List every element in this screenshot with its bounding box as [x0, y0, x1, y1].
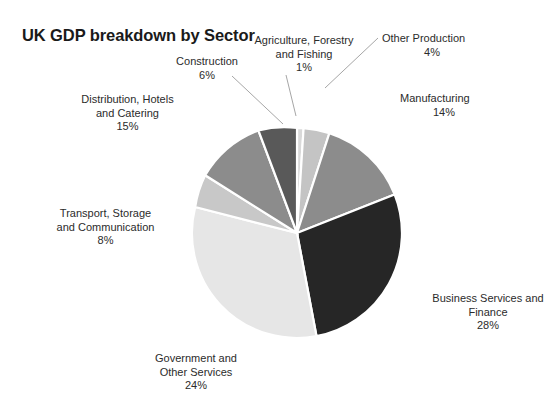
- pie-chart-figure: UK GDP breakdown by Sector: [0, 0, 558, 420]
- slice-label-line1: Other Production: [382, 32, 465, 44]
- slice-value: 4%: [382, 46, 482, 60]
- slice-label-line1: Business Services and: [432, 292, 543, 304]
- slice-label-line1: Manufacturing: [400, 92, 470, 104]
- slice-label-business-services-and-finance: Business Services and Finance 28%: [424, 292, 552, 333]
- leader-line-agriculture: [286, 75, 296, 116]
- slice-label-line2: and Catering: [96, 107, 159, 119]
- slice-label-line2: Other Services: [160, 366, 233, 378]
- slice-value: 6%: [158, 69, 256, 83]
- slice-value: 15%: [60, 120, 195, 134]
- slice-label-manufacturing: Manufacturing 14%: [400, 92, 510, 119]
- slice-label-transport-storage-and-communication: Transport, Storage and Communication 8%: [33, 207, 178, 248]
- slice-label-line1: Transport, Storage: [60, 207, 151, 219]
- slice-value: 1%: [245, 61, 363, 75]
- slice-label-line2: and Communication: [57, 221, 155, 233]
- slice-label-government-and-other-services: Government and Other Services 24%: [131, 352, 261, 393]
- slice-label-line2: and Fishing: [276, 48, 333, 60]
- slice-value: 24%: [131, 379, 261, 393]
- slice-label-line1: Agriculture, Forestry: [254, 34, 353, 46]
- slice-label-line1: Government and: [155, 352, 237, 364]
- leader-line-construction: [232, 76, 283, 124]
- slice-label-distribution-hotels-and-catering: Distribution, Hotels and Catering 15%: [60, 93, 195, 134]
- slice-label-line1: Distribution, Hotels: [81, 93, 173, 105]
- slice-label-agriculture-forestry-and-fishing: Agriculture, Forestry and Fishing 1%: [245, 34, 363, 75]
- pie-slices: [192, 127, 402, 338]
- slice-label-construction: Construction 6%: [158, 55, 256, 82]
- slice-label-line1: Construction: [176, 55, 238, 67]
- slice-label-other-production: Other Production 4%: [382, 32, 494, 59]
- slice-label-line2: Finance: [468, 306, 507, 318]
- slice-value: 14%: [400, 106, 488, 120]
- slice-value: 8%: [33, 234, 178, 248]
- slice-value: 28%: [424, 319, 552, 333]
